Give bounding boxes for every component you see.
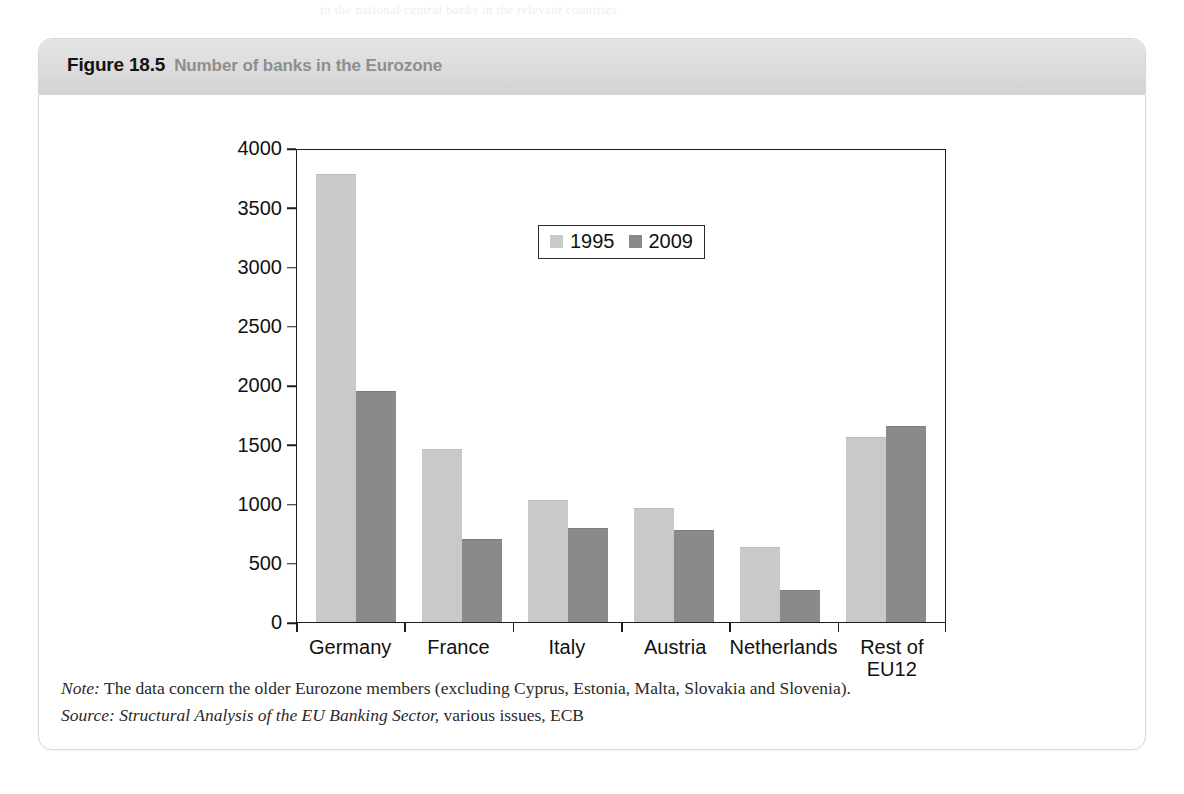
x-axis-tick-mark bbox=[621, 623, 623, 632]
x-axis-tick-mark bbox=[296, 623, 298, 632]
bar-1995 bbox=[422, 449, 462, 622]
y-axis-tick-label: 0 bbox=[271, 612, 282, 635]
y-axis-tick-label: 1000 bbox=[238, 493, 283, 516]
figure-notes: Note: The data concern the older Eurozon… bbox=[61, 675, 1131, 729]
source-line: Source: Structural Analysis of the EU Ba… bbox=[61, 702, 1131, 729]
bar-2009 bbox=[462, 539, 502, 622]
y-axis-tick: 1000 bbox=[287, 504, 296, 506]
bar-1995 bbox=[528, 500, 568, 622]
legend-item: 2009 bbox=[629, 230, 694, 253]
figure-panel: Figure 18.5 Number of banks in the Euroz… bbox=[38, 38, 1146, 750]
bar-1995 bbox=[740, 547, 780, 622]
legend-swatch-icon bbox=[629, 235, 642, 248]
bar-2009 bbox=[356, 391, 396, 622]
y-axis-tick-mark bbox=[287, 208, 296, 210]
y-axis-tick: 1500 bbox=[287, 445, 296, 447]
y-axis-tick-label: 2500 bbox=[238, 315, 283, 338]
legend-label: 2009 bbox=[649, 230, 694, 253]
chart-container: 05001000150020002500300035004000 Germany… bbox=[39, 95, 1145, 750]
figure-caption: Figure 18.5 Number of banks in the Euroz… bbox=[67, 54, 442, 76]
figure-header-bar: Figure 18.5 Number of banks in the Euroz… bbox=[39, 39, 1145, 95]
source-label: Source: bbox=[61, 705, 115, 725]
y-axis-tick-mark bbox=[287, 267, 296, 269]
x-axis-tick-mark bbox=[404, 623, 406, 632]
x-axis-tick-mark bbox=[945, 623, 947, 632]
bar-1995 bbox=[846, 437, 886, 622]
bar-1995 bbox=[316, 174, 356, 622]
figure-title: Number of banks in the Eurozone bbox=[174, 56, 442, 76]
bar-groups bbox=[297, 150, 945, 622]
y-axis-tick: 2500 bbox=[287, 326, 296, 328]
y-axis-tick-label: 2000 bbox=[238, 375, 283, 398]
y-axis-tick: 2000 bbox=[287, 385, 296, 387]
note-line: Note: The data concern the older Eurozon… bbox=[61, 675, 1131, 702]
figure-number: Figure 18.5 bbox=[67, 54, 165, 76]
note-label: Note: bbox=[61, 678, 100, 698]
bar-group bbox=[621, 150, 727, 622]
bar-2009 bbox=[568, 528, 608, 622]
y-axis-tick-label: 1500 bbox=[238, 434, 283, 457]
plot-area bbox=[296, 149, 946, 623]
y-axis-tick-label: 3500 bbox=[238, 197, 283, 220]
bar-1995 bbox=[634, 508, 674, 622]
bar-group bbox=[303, 150, 409, 622]
bar-group bbox=[833, 150, 939, 622]
y-axis-tick-mark bbox=[287, 445, 296, 447]
x-axis-tick-mark bbox=[838, 623, 840, 632]
x-axis-ticks bbox=[296, 623, 946, 633]
bar-2009 bbox=[780, 590, 820, 622]
legend-swatch-icon bbox=[550, 235, 563, 248]
source-title: Structural Analysis of the EU Banking Se… bbox=[115, 705, 439, 725]
y-axis-tick: 4000 bbox=[287, 148, 296, 150]
y-axis-tick: 3000 bbox=[287, 267, 296, 269]
note-text: The data concern the older Eurozone memb… bbox=[100, 678, 851, 698]
chart-legend: 19952009 bbox=[538, 225, 705, 259]
y-axis-tick-label: 500 bbox=[249, 552, 282, 575]
bar-group bbox=[409, 150, 515, 622]
source-rest: various issues, ECB bbox=[439, 705, 584, 725]
y-axis-tick: 3500 bbox=[287, 208, 296, 210]
y-axis-tick: 500 bbox=[287, 563, 296, 565]
y-axis-tick-mark bbox=[287, 504, 296, 506]
bar-2009 bbox=[674, 530, 714, 622]
legend-item: 1995 bbox=[550, 230, 615, 253]
y-axis-tick: 0 bbox=[287, 622, 296, 624]
y-axis-tick-mark bbox=[287, 148, 296, 150]
bar-2009 bbox=[886, 426, 926, 622]
y-axis-tick-mark bbox=[287, 563, 296, 565]
y-axis-tick-mark bbox=[287, 326, 296, 328]
x-axis-tick-mark bbox=[513, 623, 515, 632]
y-axis-tick-mark bbox=[287, 385, 296, 387]
scan-bleedthrough-top: to the national central banks in the rel… bbox=[320, 2, 1020, 18]
y-axis-tick-label: 4000 bbox=[238, 138, 283, 161]
bar-group bbox=[727, 150, 833, 622]
y-axis-tick-mark bbox=[287, 622, 296, 624]
bar-group bbox=[515, 150, 621, 622]
page-canvas: to the national central banks in the rel… bbox=[0, 0, 1184, 794]
x-axis-tick-mark bbox=[729, 623, 731, 632]
legend-label: 1995 bbox=[570, 230, 615, 253]
y-axis-tick-label: 3000 bbox=[238, 256, 283, 279]
